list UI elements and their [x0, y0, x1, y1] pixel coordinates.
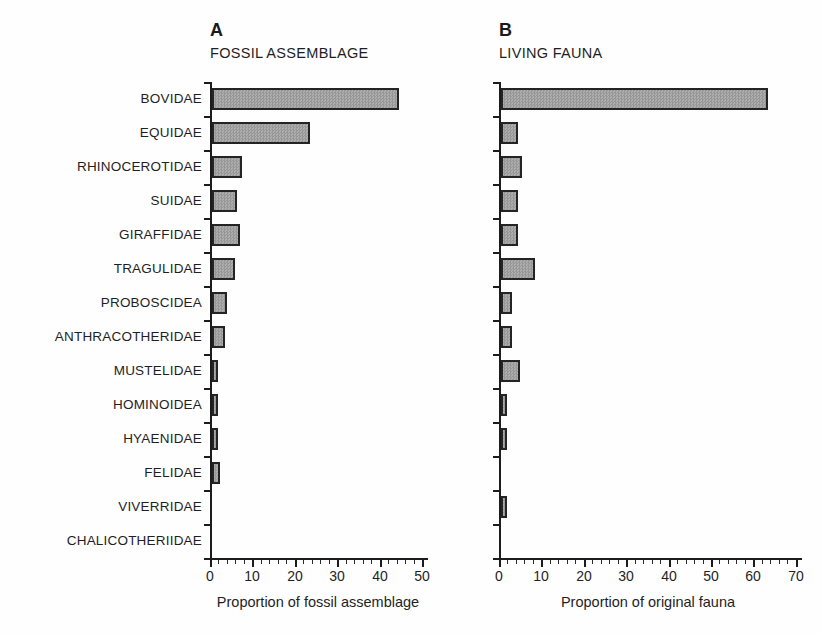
x-axis-minor-tick	[405, 560, 406, 564]
x-axis-minor-tick	[516, 560, 517, 564]
panel-a-title: FOSSIL ASSEMBLAGE	[210, 45, 368, 61]
x-axis-minor-tick	[524, 560, 525, 564]
x-axis-minor-tick	[363, 560, 364, 564]
x-axis-minor-tick	[235, 560, 236, 564]
x-axis-minor-tick	[575, 560, 576, 564]
category-label-bovidae: BOVIDAE	[0, 82, 202, 116]
bar-a-anthracotheridae	[212, 326, 225, 348]
category-label-giraffidae: GIRAFFIDAE	[0, 218, 202, 252]
y-axis-tick	[204, 184, 210, 186]
x-axis-minor-tick	[660, 560, 661, 564]
x-axis-major-tick	[626, 560, 628, 567]
y-axis-tick	[204, 490, 210, 492]
bar-a-suidae	[212, 190, 237, 212]
panel-b-plot: 010203040506070	[499, 82, 806, 558]
x-axis-minor-tick	[286, 560, 287, 564]
x-axis-line	[210, 558, 428, 560]
x-axis-tick-label-20: 20	[564, 568, 604, 584]
bar-b-viverridae	[501, 496, 507, 518]
bar-b-equidae	[501, 122, 518, 144]
bar-a-rhinocerotidae	[212, 156, 242, 178]
y-axis-tick	[204, 422, 210, 424]
panel-a-letter: A	[210, 20, 224, 41]
x-axis-minor-tick	[312, 560, 313, 564]
x-axis-minor-tick	[652, 560, 653, 564]
x-axis-tick-label-30: 30	[606, 568, 646, 584]
y-axis-tick	[493, 82, 499, 84]
panel-b-xaxis-title: Proportion of original fauna	[561, 594, 735, 610]
category-label-proboscidea: PROBOSCIDEA	[0, 286, 202, 320]
x-axis-tick-label-30: 30	[317, 568, 357, 584]
bar-b-giraffidae	[501, 224, 518, 246]
x-axis-minor-tick	[677, 560, 678, 564]
x-axis-major-tick	[541, 560, 543, 567]
x-axis-major-tick	[295, 560, 297, 567]
x-axis-minor-tick	[414, 560, 415, 564]
y-axis-tick	[493, 252, 499, 254]
y-axis-tick	[204, 286, 210, 288]
y-axis-tick	[204, 252, 210, 254]
x-axis-minor-tick	[609, 560, 610, 564]
y-axis-tick	[204, 388, 210, 390]
x-axis-minor-tick	[269, 560, 270, 564]
x-axis-major-tick	[669, 560, 671, 567]
category-label-suidae: SUIDAE	[0, 184, 202, 218]
y-axis-tick	[204, 150, 210, 152]
panel-a-plot: 01020304050	[210, 82, 432, 558]
bar-a-proboscidea	[212, 292, 227, 314]
x-axis-minor-tick	[736, 560, 737, 564]
category-label-mustelidae: MUSTELIDAE	[0, 354, 202, 388]
bar-b-anthracotheridae	[501, 326, 512, 348]
x-axis-major-tick	[711, 560, 713, 567]
x-axis-minor-tick	[567, 560, 568, 564]
x-axis-minor-tick	[346, 560, 347, 564]
y-axis-tick	[493, 524, 499, 526]
x-axis-tick-label-10: 10	[232, 568, 272, 584]
x-axis-minor-tick	[762, 560, 763, 564]
bar-a-giraffidae	[212, 224, 240, 246]
y-axis-tick	[493, 422, 499, 424]
category-label-tragulidae: TRAGULIDAE	[0, 252, 202, 286]
x-axis-minor-tick	[397, 560, 398, 564]
x-axis-minor-tick	[278, 560, 279, 564]
y-axis-tick	[204, 456, 210, 458]
y-axis-tick	[493, 456, 499, 458]
x-axis-major-tick	[210, 560, 212, 567]
y-axis-tick	[493, 218, 499, 220]
x-axis-minor-tick	[533, 560, 534, 564]
x-axis-major-tick	[499, 560, 501, 567]
x-axis-tick-label-10: 10	[521, 568, 561, 584]
category-label-viverridae: VIVERRIDAE	[0, 490, 202, 524]
x-axis-minor-tick	[303, 560, 304, 564]
x-axis-major-tick	[252, 560, 254, 567]
bar-a-hyaenidae	[212, 428, 218, 450]
y-axis-tick	[204, 218, 210, 220]
x-axis-major-tick	[380, 560, 382, 567]
y-axis-tick	[204, 354, 210, 356]
panel-b-letter: B	[499, 20, 513, 41]
x-axis-minor-tick	[218, 560, 219, 564]
bar-a-hominoidea	[212, 394, 218, 416]
y-axis-tick	[204, 320, 210, 322]
x-axis-minor-tick	[329, 560, 330, 564]
x-axis-minor-tick	[618, 560, 619, 564]
category-label-equidae: EQUIDAE	[0, 116, 202, 150]
x-axis-minor-tick	[719, 560, 720, 564]
x-axis-minor-tick	[787, 560, 788, 564]
category-label-felidae: FELIDAE	[0, 456, 202, 490]
y-axis-tick	[204, 524, 210, 526]
x-axis-minor-tick	[388, 560, 389, 564]
x-axis-tick-label-40: 40	[360, 568, 400, 584]
bar-b-tragulidae	[501, 258, 535, 280]
x-axis-minor-tick	[601, 560, 602, 564]
x-axis-minor-tick	[592, 560, 593, 564]
x-axis-minor-tick	[643, 560, 644, 564]
bar-a-tragulidae	[212, 258, 235, 280]
bar-a-felidae	[212, 462, 220, 484]
bar-a-mustelidae	[212, 360, 218, 382]
y-axis-tick	[204, 116, 210, 118]
category-label-hominoidea: HOMINOIDEA	[0, 388, 202, 422]
x-axis-minor-tick	[703, 560, 704, 564]
x-axis-minor-tick	[320, 560, 321, 564]
x-axis-tick-label-60: 60	[733, 568, 773, 584]
